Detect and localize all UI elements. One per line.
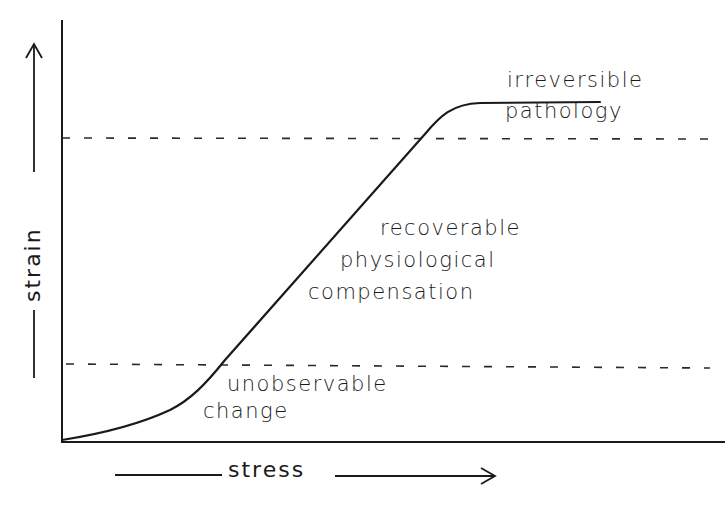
region-top-label-line1: irreversible (507, 67, 643, 94)
region-middle-label-line2: physiological (340, 247, 496, 274)
upper-threshold-line (62, 138, 710, 139)
region-top-label-line2: pathology (505, 98, 623, 125)
region-middle-label-line1: recoverable (380, 215, 521, 242)
lower-threshold-line (66, 364, 710, 368)
region-bottom-label-line2: change (203, 398, 289, 425)
region-bottom-label-line1: unobservable (227, 371, 388, 398)
region-middle-label-line3: compensation (308, 279, 474, 306)
x-axis-label: stress (228, 457, 305, 483)
y-axis-label: strain (20, 227, 46, 302)
